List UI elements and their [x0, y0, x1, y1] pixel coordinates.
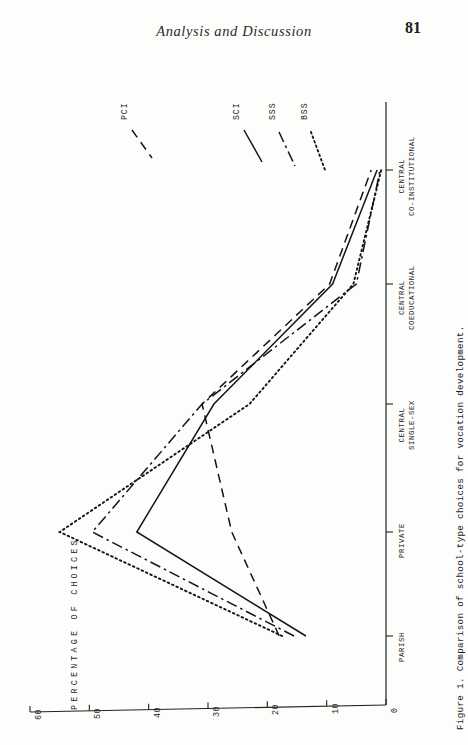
category-axis-label: CENTRALSINGLE-SEX — [398, 400, 417, 450]
category-label-line2: CO-INSTITUTIONAL — [408, 136, 418, 216]
value-axis-title-text: PERCENTAGE OF CHOICES — [70, 537, 80, 710]
value-axis-tick-label: 40 — [153, 707, 163, 718]
category-label-line2: COEDUCATIONAL — [408, 265, 418, 330]
series-line-sci — [137, 170, 377, 636]
value-axis-tick-label: 10 — [331, 703, 341, 714]
category-label-line1: PARISH — [398, 632, 408, 662]
category-axis — [386, 102, 393, 705]
value-axis-tick-label: 60 — [34, 709, 44, 720]
category-label-line1: CENTRAL — [398, 265, 408, 330]
category-axis-label: CENTRALCOEDUCATIONAL — [398, 265, 417, 330]
series-label-leader-pci — [132, 130, 152, 158]
figure-1: 6050403020100 PERCENTAGE OF CHOICES PARI… — [0, 62, 468, 745]
series-label-leader-sci — [244, 130, 262, 162]
value-axis-tick-label: 0 — [390, 708, 400, 713]
series-label-leader-sss — [279, 132, 295, 166]
running-head-title: Analysis and Discussion — [156, 23, 312, 39]
series-line-pci — [202, 170, 371, 636]
value-axis-tick-label: 20 — [271, 704, 281, 715]
series-label-sss: SSS — [268, 103, 277, 120]
series-line-sss — [92, 170, 380, 636]
running-head: Analysis and Discussion — [0, 22, 468, 40]
series-line-bss — [60, 170, 382, 636]
category-axis-label: PARISH — [398, 632, 408, 662]
series-label-leader-bss — [311, 132, 325, 170]
category-label-line1: PRIVATE — [398, 523, 408, 558]
value-axis-tick-label: 30 — [212, 706, 222, 717]
value-axis-tick-label: 50 — [93, 708, 103, 719]
category-label-line1: CENTRAL — [398, 136, 408, 216]
figure-caption: Figure 1. Comparison of school-type choi… — [455, 325, 466, 730]
page-number: 81 — [405, 19, 421, 37]
series-label-sci: SCI — [232, 103, 241, 120]
series-label-pci: PCI — [120, 103, 129, 120]
series-label-bss: BSS — [300, 103, 309, 120]
category-axis-label: PRIVATE — [398, 523, 408, 558]
category-axis-label: CENTRALCO-INSTITUTIONAL — [398, 136, 417, 216]
category-label-line1: CENTRAL — [398, 400, 408, 450]
category-label-line2: SINGLE-SEX — [408, 400, 418, 450]
